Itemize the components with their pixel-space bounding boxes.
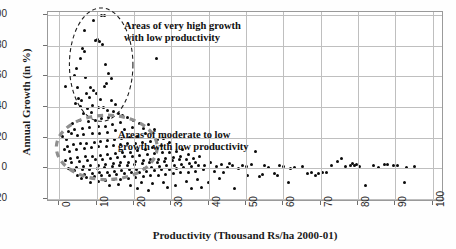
x-tick-label: 50 xyxy=(249,196,259,207)
y-tick-label: 0 xyxy=(0,162,7,172)
y-tick-label: 60 xyxy=(0,70,7,80)
scatter-point xyxy=(91,155,94,158)
scatter-point xyxy=(203,164,206,167)
scatter-point xyxy=(156,161,159,164)
scatter-point xyxy=(84,155,87,158)
scatter-point xyxy=(76,134,79,137)
scatter-point xyxy=(82,112,85,115)
x-tick-label: 100 xyxy=(436,191,446,207)
scatter-point xyxy=(100,174,103,177)
x-tick-label: 80 xyxy=(361,196,371,207)
scatter-point xyxy=(110,99,113,102)
scatter-point xyxy=(114,103,117,106)
scatter-point xyxy=(108,174,111,177)
scatter-point xyxy=(263,164,266,167)
scatter-point xyxy=(194,161,197,164)
scatter-point xyxy=(196,178,199,181)
x-gridline xyxy=(59,12,60,200)
y-tick-mark xyxy=(43,45,47,46)
scatter-point xyxy=(185,158,188,161)
scatter-point xyxy=(104,125,107,128)
scatter-point xyxy=(88,96,91,99)
scatter-point xyxy=(93,141,96,144)
y-tick-mark xyxy=(43,137,47,138)
scatter-point xyxy=(220,163,223,166)
scatter-point xyxy=(89,181,92,184)
scatter-point xyxy=(82,133,85,136)
scatter-point xyxy=(142,175,145,178)
y-tick-label: 20 xyxy=(0,132,7,142)
scatter-point xyxy=(99,98,102,101)
y-tick-mark xyxy=(43,198,47,199)
scatter-point xyxy=(148,161,151,164)
scatter-point xyxy=(69,157,72,160)
scatter-point xyxy=(76,174,79,177)
scatter-point xyxy=(278,164,281,167)
scatter-point xyxy=(273,172,276,175)
scatter-points-layer xyxy=(48,12,442,200)
scatter-point xyxy=(147,189,150,192)
scatter-point xyxy=(106,139,109,142)
scatter-point xyxy=(157,174,160,177)
scatter-point xyxy=(90,111,93,114)
scatter-point xyxy=(87,120,90,123)
scatter-point xyxy=(113,138,116,141)
scatter-point xyxy=(106,109,109,112)
y-gridline xyxy=(48,107,442,108)
scatter-point xyxy=(64,85,67,88)
x-tick-label: 30 xyxy=(174,196,184,207)
x-gridline xyxy=(395,12,396,200)
x-gridline xyxy=(358,12,359,200)
scatter-point xyxy=(110,77,113,80)
scatter-point xyxy=(115,173,118,176)
scatter-point xyxy=(106,131,109,134)
scatter-point xyxy=(73,128,76,131)
y-tick-mark xyxy=(43,167,47,168)
scatter-point xyxy=(179,155,182,158)
scatter-point xyxy=(178,158,181,161)
scatter-point xyxy=(233,187,236,190)
scatter-point xyxy=(90,146,93,149)
scatter-point xyxy=(306,172,309,175)
scatter-point xyxy=(276,174,279,177)
scatter-point xyxy=(85,92,88,95)
scatter-point xyxy=(88,126,91,129)
scatter-point xyxy=(70,132,73,135)
scatter-point xyxy=(114,152,117,155)
scatter-point xyxy=(287,181,290,184)
scatter-point xyxy=(117,183,120,186)
x-tick-label: 20 xyxy=(137,196,147,207)
x-gridline xyxy=(246,12,247,200)
scatter-point xyxy=(127,177,130,180)
scatter-point xyxy=(166,186,169,189)
scatter-point xyxy=(151,182,154,185)
scatter-point xyxy=(104,63,107,66)
x-tick-mark xyxy=(96,201,97,205)
scatter-point xyxy=(164,173,167,176)
scatter-point xyxy=(136,187,139,190)
x-gridline xyxy=(433,12,434,200)
scatter-point xyxy=(89,164,92,167)
scatter-point xyxy=(330,164,333,167)
scatter-point xyxy=(112,144,115,147)
scatter-point xyxy=(85,142,88,145)
scatter-point xyxy=(383,163,386,166)
scatter-point xyxy=(108,184,111,187)
scatter-point xyxy=(145,170,148,173)
scatter-point xyxy=(105,145,108,148)
x-gridline xyxy=(321,12,322,200)
scatter-point xyxy=(254,150,257,153)
scatter-point xyxy=(187,171,190,174)
scatter-point xyxy=(194,170,197,173)
scatter-point xyxy=(78,160,81,163)
scatter-point xyxy=(200,186,203,189)
scatter-point xyxy=(179,171,182,174)
scatter-point xyxy=(83,29,86,32)
annotation-very-high-growth: Areas of very high growth with low produ… xyxy=(124,20,241,44)
scatter-point xyxy=(185,180,188,183)
scatter-point xyxy=(163,160,166,163)
x-tick-label: 70 xyxy=(324,196,334,207)
scatter-point xyxy=(75,148,78,151)
scatter-point xyxy=(403,181,406,184)
scatter-point xyxy=(165,164,168,167)
